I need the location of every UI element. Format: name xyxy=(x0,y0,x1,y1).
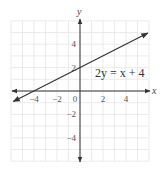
x-tick-label: 4 xyxy=(124,94,129,104)
y-tick-label: 4 xyxy=(72,39,77,49)
coordinate-plane: −4−202442−2−4 x y 2y = x + 4 xyxy=(0,0,161,172)
y-tick-label: −2 xyxy=(66,109,76,119)
x-tick-label: 0 xyxy=(73,94,78,104)
x-tick-label: −2 xyxy=(52,94,62,104)
x-axis-label: x xyxy=(151,85,157,96)
x-tick-label: −4 xyxy=(29,94,39,104)
axes xyxy=(12,19,150,162)
x-tick-label: 2 xyxy=(101,94,106,104)
equation-label: 2y = x + 4 xyxy=(95,66,145,80)
y-tick-label: −4 xyxy=(66,133,76,143)
y-axis-label: y xyxy=(76,6,82,17)
